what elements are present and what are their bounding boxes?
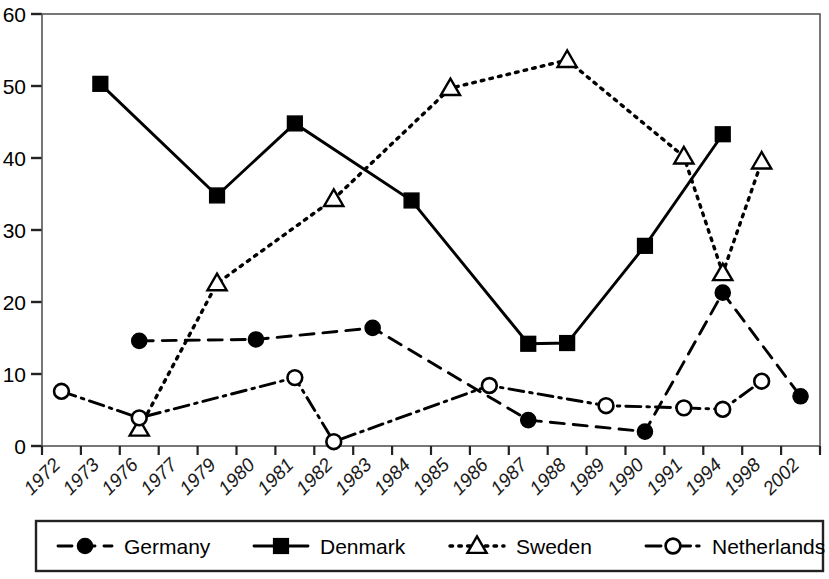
- x-axis-tick-label: 1990: [603, 454, 648, 499]
- x-axis-label-group: 1972197319761977197919801981198219831984…: [20, 453, 804, 499]
- marker-netherlands: [54, 384, 69, 399]
- y-axis-tick-label: 20: [3, 291, 26, 314]
- series-line-group: [61, 60, 800, 442]
- marker-netherlands: [676, 400, 691, 415]
- marker-denmark: [560, 336, 575, 351]
- x-axis-tick-label: 1976: [97, 454, 142, 499]
- marker-sweden: [713, 264, 732, 281]
- marker-legend-germany: [77, 538, 92, 553]
- legend-item-netherlands[interactable]: Netherlands: [646, 535, 825, 558]
- x-axis-tick-label: 1973: [58, 454, 103, 499]
- line-chart: 0102030405060 19721973197619771979198019…: [0, 0, 829, 579]
- series-marker-group: [54, 50, 808, 449]
- x-axis-tick-label: 1972: [20, 454, 65, 499]
- y-axis-tick-label: 50: [3, 75, 26, 98]
- x-axis-tick-label: 1981: [253, 454, 298, 499]
- marker-denmark: [210, 188, 225, 203]
- x-axis-tick-label: 1979: [175, 454, 220, 499]
- x-axis-tick-label: 1982: [292, 454, 337, 499]
- y-axis-tick-label: 40: [3, 147, 26, 170]
- marker-netherlands: [482, 378, 497, 393]
- marker-legend-denmark: [274, 539, 289, 554]
- x-axis-tick-label: 1980: [214, 454, 259, 499]
- marker-denmark: [715, 127, 730, 142]
- x-axis-tick-label: 1988: [525, 454, 570, 499]
- marker-netherlands: [715, 402, 730, 417]
- legend: GermanyDenmarkSwedenNetherlands: [36, 521, 825, 571]
- series-line-denmark: [100, 84, 722, 344]
- x-axis-tick-label: 1985: [409, 454, 454, 499]
- y-axis-label-group: 0102030405060: [3, 3, 26, 458]
- legend-label-germany: Germany: [124, 535, 211, 558]
- y-axis-tick-label: 10: [3, 363, 26, 386]
- marker-sweden: [558, 50, 577, 67]
- marker-denmark: [638, 238, 653, 253]
- x-axis-tick-label: 1986: [447, 454, 492, 499]
- marker-sweden: [207, 274, 226, 291]
- x-axis-tick-label: 2002: [758, 454, 804, 500]
- y-axis-tick-label: 30: [3, 219, 26, 242]
- marker-netherlands: [754, 374, 769, 389]
- legend-item-denmark[interactable]: Denmark: [254, 535, 406, 558]
- plot-border: [42, 14, 820, 446]
- marker-netherlands: [287, 370, 302, 385]
- marker-denmark: [287, 116, 302, 131]
- marker-netherlands: [599, 398, 614, 413]
- marker-germany: [365, 320, 380, 335]
- x-axis-tick-label: 1989: [564, 454, 609, 499]
- marker-netherlands: [326, 434, 341, 449]
- marker-germany: [521, 412, 536, 427]
- x-axis-tick-label: 1991: [642, 454, 687, 499]
- marker-denmark: [404, 193, 419, 208]
- marker-denmark: [93, 76, 108, 91]
- y-axis-tick-label: 60: [3, 3, 26, 26]
- marker-sweden: [752, 152, 771, 169]
- y-axis-tick-group: [31, 14, 42, 446]
- x-axis-tick-label: 1977: [136, 453, 182, 499]
- marker-denmark: [521, 336, 536, 351]
- marker-legend-netherlands: [666, 539, 681, 554]
- legend-label-denmark: Denmark: [320, 535, 406, 558]
- x-axis-tick-label: 1998: [720, 454, 765, 499]
- marker-germany: [132, 333, 147, 348]
- legend-label-sweden: Sweden: [516, 535, 592, 558]
- marker-germany: [715, 285, 730, 300]
- marker-germany: [793, 389, 808, 404]
- x-axis-tick-label: 1987: [486, 453, 532, 499]
- x-axis-tick-label: 1984: [370, 454, 415, 499]
- marker-netherlands: [132, 411, 147, 426]
- x-axis-tick-label: 1983: [331, 454, 376, 499]
- plot-area-frame: [42, 14, 820, 446]
- legend-label-netherlands: Netherlands: [712, 535, 825, 558]
- y-axis-tick-label: 0: [14, 435, 26, 458]
- chart-figure: 0102030405060 19721973197619771979198019…: [0, 0, 829, 579]
- marker-germany: [248, 332, 263, 347]
- marker-germany: [637, 424, 652, 439]
- x-axis-tick-group: [42, 446, 820, 455]
- x-axis-tick-label: 1994: [681, 454, 726, 499]
- series-line-germany: [139, 293, 800, 432]
